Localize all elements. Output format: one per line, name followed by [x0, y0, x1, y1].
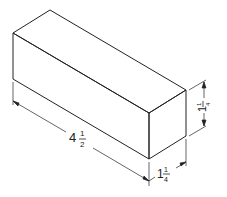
svg-text:4: 4	[164, 176, 168, 183]
svg-text:2: 2	[80, 140, 85, 149]
svg-text:1: 1	[196, 102, 202, 106]
length-label: 4 1 2	[69, 129, 86, 149]
block-outline	[13, 10, 186, 159]
height-label: 1 1 4	[196, 101, 211, 112]
end-face	[149, 90, 186, 159]
svg-text:1: 1	[157, 167, 164, 181]
block-drawing: 4 1 2 1 1 4 1 1 4	[0, 0, 227, 197]
svg-text:1: 1	[164, 166, 168, 173]
width-label: 1 1 4	[157, 166, 170, 183]
top-face	[13, 10, 186, 113]
svg-text:4: 4	[205, 102, 211, 106]
svg-text:4: 4	[69, 130, 76, 145]
svg-text:1: 1	[80, 129, 85, 138]
